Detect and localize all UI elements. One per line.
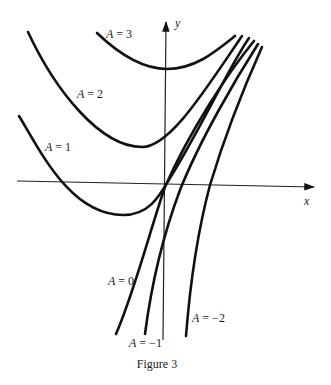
curve-am2 xyxy=(186,47,262,336)
label-a3: A = 3 xyxy=(105,27,132,41)
label-am2: A = −2 xyxy=(191,311,225,325)
figure-plot: A = 3 A = 2 A = 1 A = 0 A = −1 A = −2 x … xyxy=(0,0,331,385)
figure-caption: Figure 3 xyxy=(137,357,177,371)
x-axis-label: x xyxy=(303,194,310,208)
label-a1: A = 1 xyxy=(44,140,71,154)
y-axis-label: y xyxy=(174,16,181,30)
curve-a2 xyxy=(28,32,242,147)
label-a0: A = 0 xyxy=(107,274,134,288)
label-am1: A = −1 xyxy=(128,336,162,350)
label-a2: A = 2 xyxy=(76,87,103,101)
curve-a1 xyxy=(19,38,249,215)
